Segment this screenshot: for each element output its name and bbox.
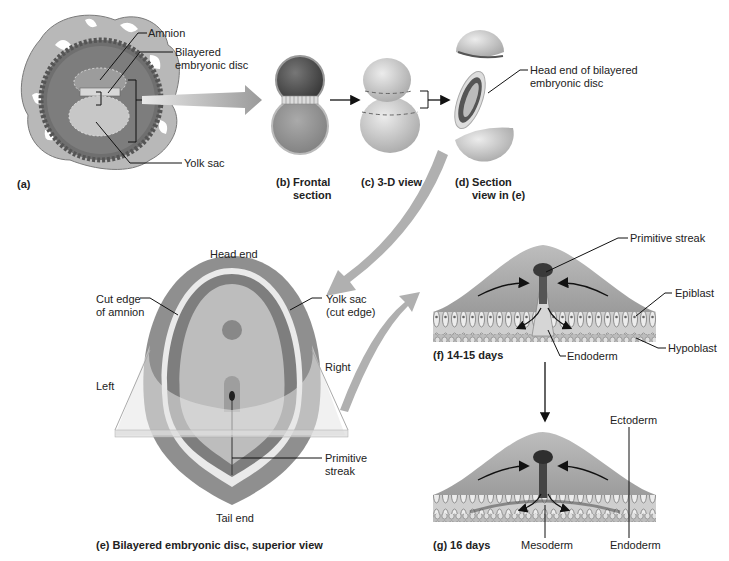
label-bilayered-1: Bilayered [175, 46, 221, 59]
label-head-end-disc-2: embryonic disc [530, 77, 603, 90]
label-primitive-streak-f: Primitive streak [630, 232, 705, 245]
label-epiblast: Epiblast [675, 287, 714, 300]
label-ectoderm: Ectoderm [610, 414, 657, 427]
panel-c-3d-view [360, 58, 428, 153]
caption-b-line1: (b) Frontal [276, 176, 330, 189]
label-mesoderm: Mesoderm [521, 539, 573, 552]
panel-f-14-15-days [433, 238, 672, 356]
label-yolk-sac-cut-1: Yolk sac [326, 293, 367, 306]
label-cut-edge-2: of amnion [96, 306, 144, 319]
caption-b-line2: section [293, 189, 332, 202]
label-endoderm-f: Endoderm [567, 350, 618, 363]
panel-g-16-days [433, 427, 656, 538]
label-head-end: Head end [210, 248, 258, 261]
panel-d-section-view [448, 30, 528, 162]
label-yolk-sac: Yolk sac [184, 157, 225, 170]
caption-a: (a) [17, 178, 30, 191]
label-head-end-disc-1: Head end of bilayered [530, 64, 638, 77]
label-bilayered-2: embryonic disc [175, 59, 248, 72]
label-left: Left [96, 380, 114, 393]
caption-d-line2: view in (e) [472, 189, 525, 202]
label-primitive-streak-e-1: Primitive [325, 452, 367, 465]
label-yolk-sac-cut-2: (cut edge) [326, 306, 376, 319]
label-hypoblast: Hypoblast [668, 342, 717, 355]
caption-g: (g) 16 days [433, 539, 490, 552]
label-amnion: Amnion [148, 27, 185, 40]
diagram-artwork [0, 0, 729, 561]
label-endoderm-g: Endoderm [610, 539, 661, 552]
label-tail-end: Tail end [216, 512, 254, 525]
panel-b-frontal-section [272, 56, 328, 154]
caption-d-line1: (d) Section [455, 176, 512, 189]
caption-c: (c) 3-D view [361, 176, 422, 189]
arrow-d-to-e [326, 150, 448, 296]
label-primitive-streak-e-2: streak [325, 465, 355, 478]
label-cut-edge-1: Cut edge [96, 293, 141, 306]
caption-e: (e) Bilayered embryonic disc, superior v… [96, 539, 323, 552]
label-right: Right [325, 361, 351, 374]
caption-f: (f) 14-15 days [433, 349, 503, 362]
panel-e-superior-view [115, 256, 348, 505]
